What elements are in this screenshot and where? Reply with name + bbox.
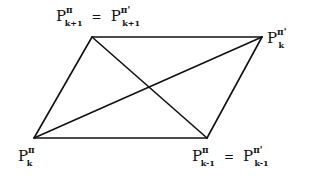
diagonal-bl-tr — [34, 37, 262, 138]
point-p-piprime-k: Pπ'k — [267, 30, 284, 46]
label-bottom-left: Pπk — [18, 148, 32, 164]
edge-right — [207, 37, 262, 138]
point-p-piprime-k-plus-1: Pπ'k+1 — [111, 8, 140, 24]
point-p-pi-k: Pπk — [18, 148, 32, 164]
label-top-left: Pπk+1 = Pπ'k+1 — [56, 8, 140, 24]
equals-sign: = — [224, 150, 234, 164]
label-bottom-right: Pπk-1 = Pπ'k-1 — [192, 148, 269, 164]
label-top-right: Pπ'k — [267, 30, 284, 46]
point-p-pi-k-plus-1: Pπk+1 — [56, 8, 83, 24]
edge-left — [34, 37, 92, 138]
point-p-piprime-k-minus-1: Pπ'k-1 — [243, 148, 269, 164]
point-p-pi-k-minus-1: Pπk-1 — [192, 148, 215, 164]
equals-sign: = — [92, 10, 102, 24]
